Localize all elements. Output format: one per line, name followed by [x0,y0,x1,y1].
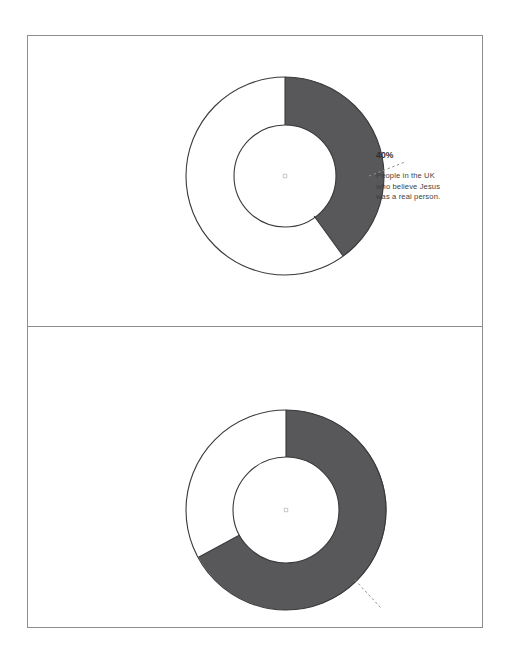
donut-figure-us [28,327,482,629]
chart-panel-top: 40% People in the UK who believe Jesus w… [28,36,482,326]
callout-description-uk: People in the UK who believe Jesus was a… [376,171,440,201]
page-frame: 40% People in the UK who believe Jesus w… [27,35,483,628]
leader-line-us [355,580,381,608]
chart-panel-bottom: 73% Americans who believe Jesus was born… [28,326,482,629]
callout-uk: 40% People in the UK who believe Jesus w… [376,139,481,203]
donut-chart-us [159,383,423,647]
callout-percent-uk: 40% [376,150,481,161]
